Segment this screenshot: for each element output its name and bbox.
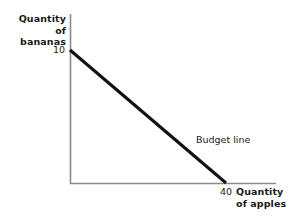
x-axis-tick-label-40: 40 — [212, 186, 240, 197]
y-axis-tick-label-10: 10 — [38, 44, 65, 55]
budget-line-chart-figure: Quantity of bananas Quantity of apples 1… — [0, 0, 300, 222]
x-axis-title-line2: of apples — [236, 198, 286, 209]
budget-line-annotation-label: Budget line — [196, 134, 250, 145]
budget-line-series — [70, 50, 226, 183]
x-axis-title: Quantity of apples — [236, 186, 298, 209]
x-axis-title-line1: Quantity — [236, 186, 283, 197]
y-axis-title: Quantity of bananas — [6, 13, 66, 48]
y-axis-title-line1: Quantity of — [19, 13, 66, 36]
